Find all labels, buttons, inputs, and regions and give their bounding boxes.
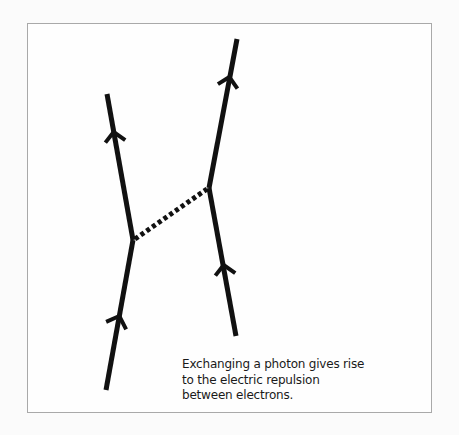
diagram-caption: Exchanging a photon gives rise to the el… [182,357,372,404]
photon-line [135,189,207,239]
